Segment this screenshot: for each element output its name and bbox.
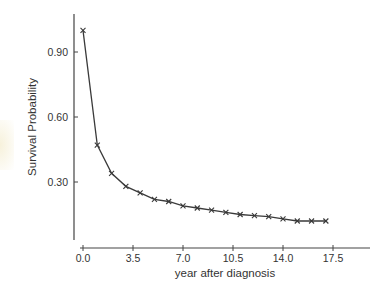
x-tick-label: 7.0 (176, 252, 191, 264)
x-marker-icon (138, 190, 143, 195)
survival-chart: 0.300.600.90 0.03.57.010.514.017.5 year … (0, 0, 388, 302)
x-axis: 0.03.57.010.514.017.5 (76, 245, 370, 264)
y-tick-label: 0.60 (48, 111, 69, 123)
y-tick-label: 0.90 (48, 46, 69, 58)
x-tick-label: 14.0 (273, 252, 294, 264)
x-tick-label: 10.5 (223, 252, 244, 264)
x-marker-icon (123, 184, 128, 189)
y-tick-label: 0.30 (48, 176, 69, 188)
x-marker-icon (109, 171, 114, 176)
y-axis: 0.300.600.90 (48, 14, 78, 240)
chart-canvas: 0.300.600.90 0.03.57.010.514.017.5 year … (0, 0, 388, 302)
x-axis-title: year after diagnosis (175, 267, 276, 279)
y-axis-title: Survival Probability (26, 78, 38, 176)
survival-line (83, 30, 326, 221)
x-tick-label: 17.5 (323, 252, 344, 264)
x-tick-label: 3.5 (126, 252, 141, 264)
x-tick-label: 0.0 (76, 252, 91, 264)
plot-area (81, 28, 329, 224)
